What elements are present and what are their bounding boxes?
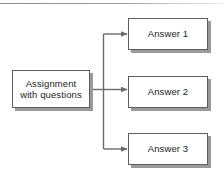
node-answer-3: Answer 3 — [128, 133, 208, 165]
node-answer-1-label: Answer 1 — [148, 28, 188, 40]
node-assignment: Assignment with questions — [12, 70, 90, 108]
node-assignment-label: Assignment with questions — [20, 78, 82, 101]
diagram-canvas: Assignment with questions Answer 1 Answe… — [0, 0, 223, 181]
node-answer-2: Answer 2 — [128, 76, 208, 108]
node-answer-3-label: Answer 3 — [148, 143, 188, 155]
node-answer-1: Answer 1 — [128, 18, 208, 50]
node-answer-2-label: Answer 2 — [148, 86, 188, 98]
